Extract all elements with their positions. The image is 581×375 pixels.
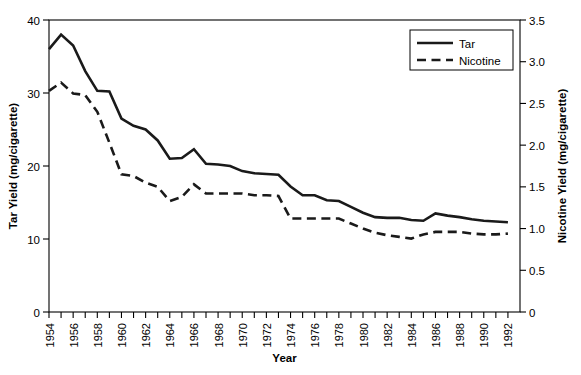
y2-axis-tick-label: 1.0 (529, 223, 545, 235)
y-axis-title: Tar Yield (mg/cigarette) (7, 103, 19, 229)
legend-label-tar: Tar (459, 38, 475, 50)
y2-axis-tick-label: 2.0 (529, 140, 545, 152)
x-axis-tick-label: 1966 (188, 323, 200, 347)
y-axis-tick-label: 40 (27, 15, 40, 27)
x-axis-tick-label: 1990 (478, 323, 490, 347)
x-axis-tick-label: 1962 (140, 323, 152, 347)
y2-axis-title: Nicotine Yield (mg/cigarette) (556, 89, 568, 244)
x-axis-tick-label: 1992 (502, 323, 514, 347)
x-axis-tick-label: 1968 (213, 323, 225, 347)
x-axis-tick-label: 1970 (237, 323, 249, 347)
chart-container: 01020304000.51.01.52.02.53.03.5195419561… (0, 0, 581, 375)
x-axis-tick-label: 1956 (68, 323, 80, 347)
x-axis-tick-label: 1972 (261, 323, 273, 347)
y2-axis-tick-label: 0 (529, 307, 535, 319)
y2-axis-tick-label: 3.0 (529, 56, 545, 68)
y-axis-tick-label: 20 (27, 161, 40, 173)
x-axis-tick-label: 1988 (454, 323, 466, 347)
y-axis-tick-label: 10 (27, 234, 40, 246)
y2-axis-tick-label: 1.5 (529, 181, 545, 193)
x-axis-tick-label: 1964 (164, 323, 176, 347)
x-axis-tick-label: 1982 (382, 323, 394, 347)
x-axis-tick-label: 1986 (430, 323, 442, 347)
x-axis-tick-label: 1954 (44, 323, 56, 347)
y2-axis-tick-label: 2.5 (529, 98, 545, 110)
y-axis-tick-label: 0 (34, 307, 40, 319)
x-axis-tick-label: 1984 (406, 323, 418, 347)
x-axis-tick-label: 1974 (285, 323, 297, 347)
x-axis-tick-label: 1980 (358, 323, 370, 347)
x-axis-tick-label: 1958 (92, 323, 104, 347)
y-axis-tick-label: 30 (27, 88, 40, 100)
x-axis-tick-label: 1978 (333, 323, 345, 347)
x-axis-tick-label: 1960 (116, 323, 128, 347)
tar-nicotine-line-chart: 01020304000.51.01.52.02.53.03.5195419561… (0, 0, 581, 375)
x-axis-tick-label: 1976 (309, 323, 321, 347)
x-axis-title: Year (272, 352, 297, 364)
y2-axis-tick-label: 0.5 (529, 265, 545, 277)
legend-label-nicotine: Nicotine (459, 55, 501, 67)
y2-axis-tick-label: 3.5 (529, 15, 545, 27)
